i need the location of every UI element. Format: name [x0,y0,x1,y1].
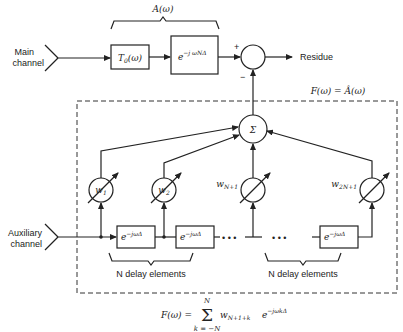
plus-sign: + [234,42,239,52]
left-brace [109,253,193,265]
aux-antenna-icon [45,224,58,250]
sigma-label: Σ [249,125,257,135]
svg-text:wN+1+k: wN+1+k [220,310,251,321]
main-channel-label-2: channel [12,58,44,68]
n-delay-left-label: N delay elements [116,269,186,279]
svg-text:k = −N: k = −N [194,325,221,332]
adaptive-filter-boundary [77,101,397,293]
a-omega-label: A(ω) [152,4,174,14]
residue-label: Residue [300,52,333,62]
weight-w2n1: w2N+1 [331,173,389,203]
svg-text:N: N [203,297,211,305]
minus-sign: − [240,72,245,82]
svg-text:Σ: Σ [201,305,213,325]
svg-text:w2N+1: w2N+1 [331,179,357,190]
aux-channel-label-2: channel [10,239,42,249]
weight-wn1: wN+1 [216,173,270,203]
aux-channel-label: Auxiliary [8,228,43,238]
ellipsis-left: • • • [222,233,236,243]
formula: F(ω) = Σ N k = −N wN+1+k e−jωkΔ [160,297,287,332]
svg-text:F(ω) =: F(ω) = [160,310,192,320]
svg-text:e−jωkΔ: e−jωkΔ [262,307,287,320]
adaptive-canceller-diagram: Main channel A(ω) T0(ω) e−j ωNΔ + − Resi… [0,0,403,332]
n-delay-right-label: N delay elements [268,269,338,279]
main-antenna-icon [45,45,58,71]
right-brace [265,253,341,265]
svg-text:wN+1: wN+1 [216,179,238,190]
a-omega-brace [111,17,219,29]
residue-summer [241,45,265,69]
ellipsis-right: • • • [272,233,286,243]
weight-w1: w1 [88,173,118,203]
f-omega-label: F(ω) = Â(ω) [310,85,366,96]
t0-label: T0(ω) [118,53,143,64]
main-channel-label: Main [14,47,34,57]
weight-w2: w2 [151,173,181,203]
